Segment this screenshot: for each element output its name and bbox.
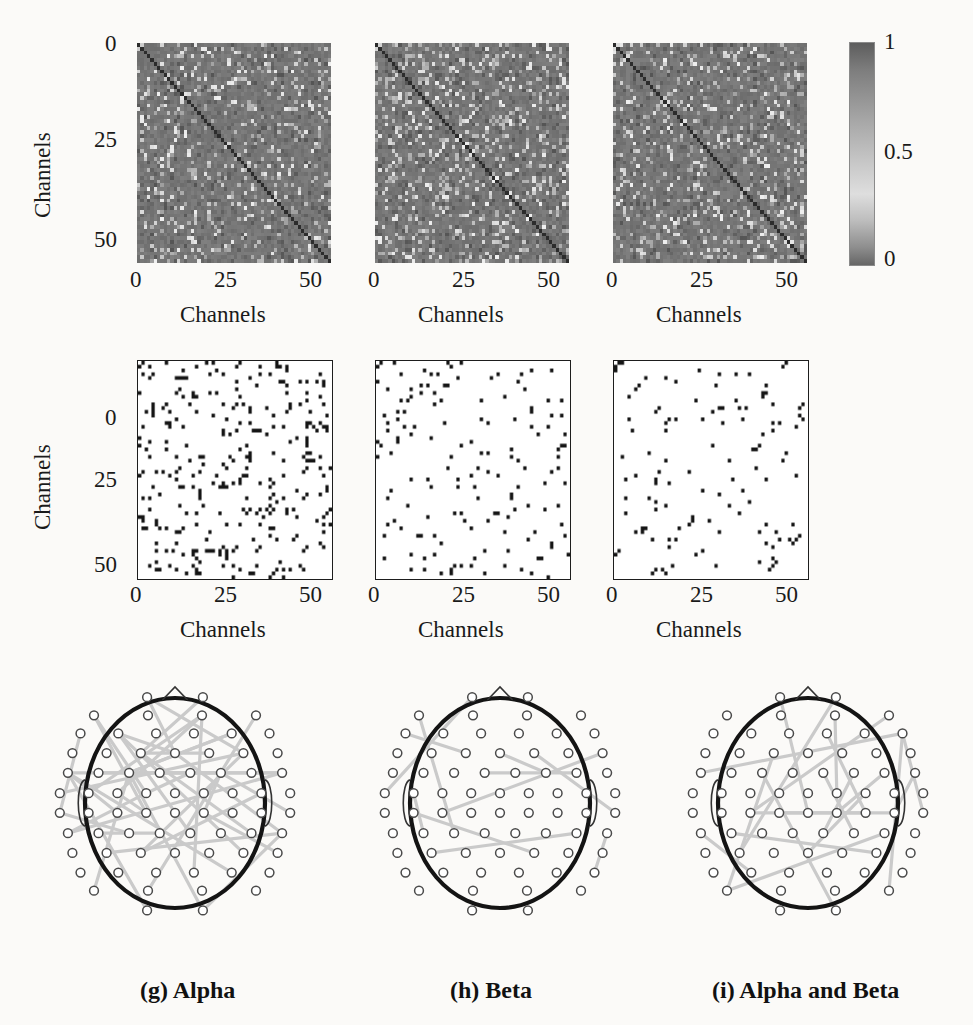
- electrode-marker: [819, 829, 828, 838]
- electrode-marker: [723, 886, 732, 895]
- electrode-marker: [76, 868, 85, 877]
- electrode-marker: [257, 808, 266, 817]
- row2-p3-xtick-50: 50: [775, 583, 798, 606]
- row2-p3-x-axis-label: Channels: [656, 617, 742, 643]
- connectivity-matrix-alpha-beta: [613, 43, 807, 263]
- electrode-marker: [523, 711, 532, 720]
- electrode-marker: [143, 906, 152, 915]
- electrode-marker: [286, 808, 295, 817]
- electrode-marker: [401, 729, 410, 738]
- electrode-marker: [735, 849, 744, 858]
- electrode-marker: [701, 849, 710, 858]
- electrode-marker: [496, 849, 505, 858]
- electrode-marker: [171, 789, 180, 798]
- electrode-marker: [199, 789, 208, 798]
- electrode-marker: [198, 886, 207, 895]
- electrode-marker: [717, 808, 726, 817]
- electrode-marker: [171, 749, 180, 758]
- row2-p1-xtick-0: 0: [130, 583, 142, 606]
- electrode-marker: [688, 789, 697, 798]
- electrode-marker: [94, 829, 103, 838]
- electrode-marker: [144, 886, 153, 895]
- thresholded-matrix-beta: [375, 360, 571, 580]
- electrode-marker: [393, 749, 402, 758]
- electrode-marker: [409, 789, 418, 798]
- electrode-marker: [273, 749, 282, 758]
- topoplot-beta: [345, 655, 655, 955]
- electrode-marker: [419, 768, 428, 777]
- electrode-marker: [911, 829, 920, 838]
- electrode-marker: [804, 849, 813, 858]
- electrode-marker: [697, 768, 706, 777]
- electrode-marker: [553, 789, 562, 798]
- electrode-marker: [427, 749, 436, 758]
- connection-line: [129, 773, 203, 911]
- electrode-marker: [227, 729, 236, 738]
- electrode-marker: [523, 886, 532, 895]
- row1-p1-x-axis-label: Channels: [180, 302, 266, 328]
- electrode-marker: [769, 849, 778, 858]
- electrode-marker: [278, 829, 287, 838]
- electrode-marker: [688, 808, 697, 817]
- electrode-marker: [850, 768, 859, 777]
- electrode-marker: [572, 768, 581, 777]
- row2-ytick-0: 0: [105, 406, 117, 429]
- electrode-marker: [598, 749, 607, 758]
- electrode-marker: [228, 808, 237, 817]
- electrode-marker: [450, 829, 459, 838]
- row1-ytick-0: 0: [105, 32, 117, 55]
- electrode-marker: [777, 886, 786, 895]
- electrode-marker: [199, 906, 208, 915]
- electrode-marker: [735, 749, 744, 758]
- electrode-marker: [496, 749, 505, 758]
- electrode-marker: [582, 808, 591, 817]
- electrode-marker: [171, 808, 180, 817]
- electrode-marker: [380, 789, 389, 798]
- electrode-marker: [450, 768, 459, 777]
- electrode-marker: [709, 729, 718, 738]
- electrode-marker: [919, 789, 928, 798]
- electrode-marker: [171, 849, 180, 858]
- electrode-marker: [515, 729, 524, 738]
- caption-alpha-and-beta: (i) Alpha and Beta: [712, 977, 899, 1004]
- electrode-marker: [252, 711, 261, 720]
- electrode-marker: [524, 789, 533, 798]
- electrode-marker: [746, 789, 755, 798]
- electrode-marker: [697, 829, 706, 838]
- electrode-marker: [747, 729, 756, 738]
- electrode-marker: [747, 868, 756, 877]
- electrode-marker: [461, 849, 470, 858]
- row1-p1-xtick-50: 50: [299, 268, 322, 291]
- electrode-marker: [94, 768, 103, 777]
- electrode-marker: [530, 849, 539, 858]
- electrode-marker: [152, 729, 161, 738]
- electrode-marker: [198, 711, 207, 720]
- row1-p1-xtick-25: 25: [214, 268, 237, 291]
- electrode-marker: [553, 808, 562, 817]
- electrode-marker: [885, 711, 894, 720]
- electrode-marker: [717, 789, 726, 798]
- row1-p2-x-axis-label: Channels: [418, 302, 504, 328]
- row2-y-axis-label: Channels: [30, 444, 56, 530]
- electrode-marker: [477, 729, 486, 738]
- electrode-marker: [217, 768, 226, 777]
- electrode-marker: [577, 886, 586, 895]
- electrode-marker: [142, 808, 151, 817]
- electrode-marker: [577, 711, 586, 720]
- row1-p2-xtick-25: 25: [452, 268, 475, 291]
- electrode-marker: [468, 693, 477, 702]
- electrode-marker: [155, 768, 164, 777]
- electrode-marker: [860, 729, 869, 738]
- electrode-marker: [217, 829, 226, 838]
- electrode-marker: [427, 849, 436, 858]
- electrode-marker: [467, 808, 476, 817]
- row1-p3-xtick-25: 25: [690, 268, 713, 291]
- electrode-marker: [515, 868, 524, 877]
- electrode-marker: [898, 729, 907, 738]
- caption-beta: (h) Beta: [450, 977, 532, 1004]
- electrode-marker: [415, 886, 424, 895]
- electrode-marker: [564, 749, 573, 758]
- electrode-marker: [76, 729, 85, 738]
- electrode-marker: [788, 829, 797, 838]
- electrode-marker: [723, 711, 732, 720]
